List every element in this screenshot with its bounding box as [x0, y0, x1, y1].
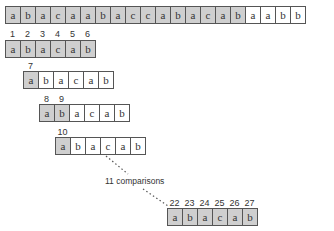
comparisons-annotation: 11 comparisons: [105, 176, 164, 186]
position-label: 27: [242, 199, 257, 207]
position-label: 23: [182, 199, 197, 207]
pattern-cell: a: [227, 208, 243, 226]
position-label: 22: [167, 199, 182, 207]
position-label: 25: [212, 199, 227, 207]
pattern-cell: c: [212, 208, 228, 226]
attempt-5-labels: 222324252627: [167, 199, 257, 207]
dotted-connector: [0, 0, 334, 231]
position-label: 26: [227, 199, 242, 207]
pattern-cell: a: [167, 208, 183, 226]
pattern-cell: a: [197, 208, 213, 226]
pattern-cell: b: [242, 208, 258, 226]
pattern-cell: b: [182, 208, 198, 226]
pattern-attempt-5: abacab: [167, 208, 258, 226]
position-label: 24: [197, 199, 212, 207]
